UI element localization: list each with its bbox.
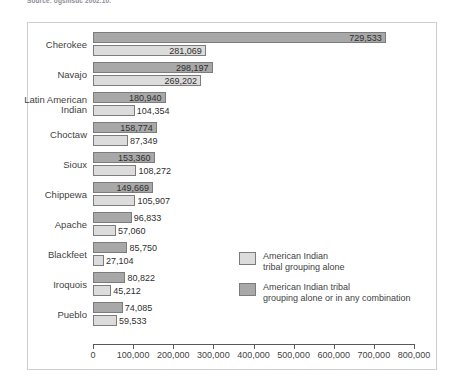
x-axis-tick bbox=[213, 344, 214, 349]
bar-dark: 153,360 bbox=[93, 152, 155, 163]
bar-light: 105,907 bbox=[93, 195, 135, 206]
bar-group: Navajo298,197269,202 bbox=[28, 60, 438, 90]
bar-value-label: 105,907 bbox=[137, 196, 170, 207]
bar-value-label: 158,774 bbox=[120, 123, 153, 134]
bar-dark: 74,085 bbox=[93, 302, 123, 313]
category-label-sioux: Sioux bbox=[0, 150, 91, 180]
x-axis-tick bbox=[374, 344, 375, 349]
x-axis-tick bbox=[133, 344, 134, 349]
bar-value-label: 80,822 bbox=[127, 273, 155, 284]
bar-value-label: 153,360 bbox=[118, 153, 151, 164]
bar-group: Cherokee729,533281,069 bbox=[28, 30, 438, 60]
bar-value-label: 96,833 bbox=[134, 213, 162, 224]
x-axis-tick-label: 300,000 bbox=[197, 350, 230, 360]
category-label-chippewa: Chippewa bbox=[0, 180, 91, 210]
chart-legend: American Indian tribal grouping aloneAme… bbox=[239, 251, 429, 313]
category-label-cherokee: Cherokee bbox=[0, 30, 91, 60]
bar-group: Latin American Indian180,940104,354 bbox=[28, 90, 438, 120]
bar-value-label: 57,060 bbox=[118, 226, 146, 237]
x-axis-tick-label: 500,000 bbox=[277, 350, 310, 360]
bar-dark: 298,197 bbox=[93, 62, 213, 73]
bar-group: Apache96,83357,060 bbox=[28, 210, 438, 240]
x-axis-tick bbox=[294, 344, 295, 349]
x-axis-tick-label: 200,000 bbox=[157, 350, 190, 360]
bar-value-label: 108,272 bbox=[138, 166, 171, 177]
bar-value-label: 104,354 bbox=[137, 106, 170, 117]
category-label-iroquois: Iroquois bbox=[0, 270, 91, 300]
bar-value-label: 281,069 bbox=[169, 46, 202, 57]
bars: 153,360108,272 bbox=[93, 150, 438, 180]
bar-dark: 729,533 bbox=[93, 32, 386, 43]
bar-dark: 96,833 bbox=[93, 212, 132, 223]
bar-light: 269,202 bbox=[93, 75, 201, 86]
bar-light: 27,104 bbox=[93, 255, 104, 266]
x-axis-tick bbox=[173, 344, 174, 349]
bar-light: 59,533 bbox=[93, 315, 117, 326]
legend-swatch-combination bbox=[239, 283, 256, 296]
bar-group: Choctaw158,77487,349 bbox=[28, 120, 438, 150]
bars: 149,669105,907 bbox=[93, 180, 438, 210]
source-note: Source: ogsmsdc 2002.10. bbox=[27, 0, 111, 5]
bar-value-label: 74,085 bbox=[125, 303, 153, 314]
bar-value-label: 27,104 bbox=[106, 256, 134, 267]
bars: 298,197269,202 bbox=[93, 60, 438, 90]
chart-frame: Cherokee729,533281,069Navajo298,197269,2… bbox=[27, 22, 437, 370]
category-label-latin american-indian: Latin American Indian bbox=[0, 90, 91, 120]
bar-light: 108,272 bbox=[93, 165, 136, 176]
x-axis-tick bbox=[93, 344, 94, 349]
x-axis-tick-label: 400,000 bbox=[237, 350, 270, 360]
category-label-apache: Apache bbox=[0, 210, 91, 240]
x-axis-tick bbox=[414, 344, 415, 349]
x-axis-tick-label: 700,000 bbox=[358, 350, 391, 360]
bar-light: 45,212 bbox=[93, 285, 111, 296]
bar-dark: 85,750 bbox=[93, 242, 127, 253]
bars: 729,533281,069 bbox=[93, 30, 438, 60]
bar-light: 87,349 bbox=[93, 135, 128, 146]
bars: 180,940104,354 bbox=[93, 90, 438, 120]
bar-value-label: 180,940 bbox=[129, 93, 162, 104]
bar-dark: 149,669 bbox=[93, 182, 153, 193]
bars: 158,77487,349 bbox=[93, 120, 438, 150]
legend-label-alone: American Indian tribal grouping alone bbox=[263, 251, 345, 273]
legend-item-alone: American Indian tribal grouping alone bbox=[239, 251, 429, 273]
bar-dark: 180,940 bbox=[93, 92, 166, 103]
x-axis-tick-label: 0 bbox=[90, 350, 95, 360]
bar-light: 57,060 bbox=[93, 225, 116, 236]
x-axis-tick-label: 600,000 bbox=[317, 350, 350, 360]
bars: 96,83357,060 bbox=[93, 210, 438, 240]
legend-swatch-alone bbox=[239, 252, 256, 265]
category-label-navajo: Navajo bbox=[0, 60, 91, 90]
bar-dark: 80,822 bbox=[93, 272, 125, 283]
bar-light: 281,069 bbox=[93, 45, 206, 56]
bar-value-label: 87,349 bbox=[130, 136, 158, 147]
category-label-pueblo: Pueblo bbox=[0, 300, 91, 330]
bar-value-label: 85,750 bbox=[129, 243, 157, 254]
legend-label-combination: American Indian tribal grouping alone or… bbox=[263, 282, 411, 304]
x-axis-tick-label: 100,000 bbox=[117, 350, 150, 360]
x-axis-tick-label: 800,000 bbox=[398, 350, 431, 360]
x-axis-tick bbox=[254, 344, 255, 349]
bar-value-label: 298,197 bbox=[176, 63, 209, 74]
bar-dark: 158,774 bbox=[93, 122, 157, 133]
bar-value-label: 59,533 bbox=[119, 316, 147, 327]
legend-item-combination: American Indian tribal grouping alone or… bbox=[239, 282, 429, 304]
x-axis-tick bbox=[334, 344, 335, 349]
bar-value-label: 45,212 bbox=[113, 286, 141, 297]
bar-light: 104,354 bbox=[93, 105, 135, 116]
bar-group: Chippewa149,669105,907 bbox=[28, 180, 438, 210]
bar-value-label: 729,533 bbox=[349, 33, 382, 44]
category-label-choctaw: Choctaw bbox=[0, 120, 91, 150]
bar-group: Sioux153,360108,272 bbox=[28, 150, 438, 180]
bar-value-label: 269,202 bbox=[164, 76, 197, 87]
plot-area: Cherokee729,533281,069Navajo298,197269,2… bbox=[28, 23, 438, 371]
bar-value-label: 149,669 bbox=[117, 183, 150, 194]
category-label-blackfeet: Blackfeet bbox=[0, 240, 91, 270]
